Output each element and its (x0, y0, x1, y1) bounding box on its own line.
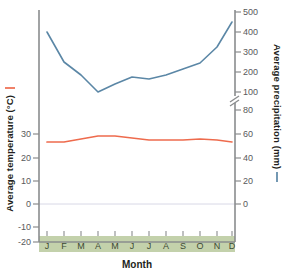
month-label: F (61, 241, 67, 251)
month-label: S (180, 241, 186, 251)
month-label: O (196, 241, 203, 251)
right-tick-label: 0 (243, 199, 248, 209)
left-axis-label-group: Average temperature (°C) (2, 36, 18, 212)
month-label: J (45, 241, 50, 251)
right-axis-label-group: Average precipitation (mm) (268, 44, 286, 230)
month-label: D (229, 241, 236, 251)
month-label: J (130, 241, 135, 251)
right-tick-label: 500 (243, 7, 258, 17)
temperature-legend-dash-icon (3, 81, 17, 95)
right-tick-label: 300 (243, 47, 258, 57)
left-tick-label: 30 (21, 129, 31, 139)
month-label: M (111, 241, 119, 251)
month-label: J (147, 241, 152, 251)
right-axis-ticks-lower (235, 110, 241, 204)
x-axis-title: Month (122, 259, 152, 270)
month-label: A (163, 241, 169, 251)
left-tick-label: 20 (21, 153, 31, 163)
right-tick-label: 40 (243, 153, 253, 163)
left-axis-ticks (33, 134, 39, 242)
left-tick-label: 0 (26, 199, 31, 209)
right-tick-label: 200 (243, 67, 258, 77)
left-tick-label: -10 (18, 222, 31, 232)
left-axis-title: Average temperature (°C) (5, 95, 15, 212)
right-axis-ticks-upper (235, 12, 241, 92)
month-label: A (95, 241, 101, 251)
month-label: N (214, 241, 221, 251)
month-label: M (77, 241, 85, 251)
right-tick-label: 100 (243, 87, 258, 97)
precipitation-legend-dash-icon (270, 169, 284, 185)
left-tick-label: 10 (21, 176, 31, 186)
right-tick-label: 400 (243, 27, 258, 37)
right-axis-tick-labels-lower: 80 60 40 20 0 (243, 105, 253, 209)
right-tick-label: 20 (243, 176, 253, 186)
climate-chart: 30 20 10 0 -10 -20 500 400 300 200 100 8… (0, 0, 290, 275)
month-band (39, 236, 235, 252)
plot-area (39, 10, 235, 242)
right-tick-label: 60 (243, 129, 253, 139)
right-tick-label: 80 (243, 105, 253, 115)
right-axis-title: Average precipitation (mm) (272, 44, 282, 169)
left-axis-tick-labels: 30 20 10 0 -10 -20 (18, 129, 31, 247)
left-tick-label: -20 (18, 237, 31, 247)
right-axis-tick-labels-upper: 500 400 300 200 100 (243, 7, 258, 97)
